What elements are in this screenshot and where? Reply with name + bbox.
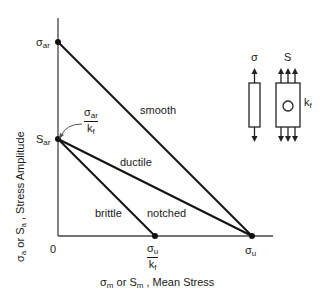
sigma-u-over-kf-label: σu kf [147, 243, 158, 272]
s-ar-label: Sar [36, 134, 50, 147]
ductile-line [58, 139, 252, 236]
leader-arrow [61, 124, 82, 136]
brittle-line [58, 139, 155, 236]
sigma-u-kf-point [152, 233, 158, 239]
leader-arrowhead-icon [59, 133, 64, 139]
sigma-ar-label: σar [36, 37, 50, 50]
sigma-ar-point [55, 39, 61, 45]
smooth-specimen-label: σ [251, 52, 258, 63]
smooth-line-label: smooth [140, 105, 176, 116]
kf-label: kf [304, 97, 312, 110]
notched-specimen-label: S [284, 52, 291, 63]
brittle-line-label: brittle [95, 208, 122, 219]
notched-specimen-icon [276, 68, 300, 142]
ductile-line-label: ductile [120, 157, 152, 168]
y-axis-title: σa or Sa , Stress Amplitude [14, 131, 28, 262]
origin-label: 0 [50, 244, 56, 255]
sigma-u-label: σu [245, 245, 256, 258]
smooth-specimen-icon [249, 68, 260, 142]
sigma-ar-over-kf-label: σar kf [84, 107, 98, 136]
sigma-u-point [249, 233, 255, 239]
notched-line-label: notched [147, 208, 186, 219]
x-axis-title: σm or Sm , Mean Stress [100, 277, 214, 290]
